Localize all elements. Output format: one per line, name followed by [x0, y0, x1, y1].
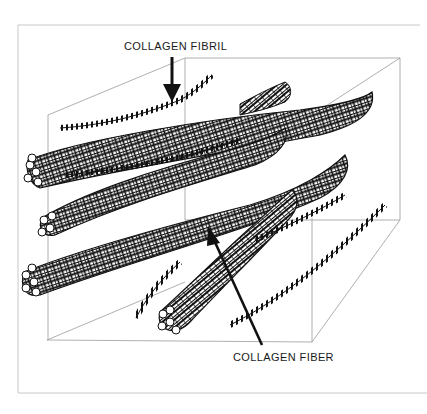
fibril-pointer-arrow: [163, 57, 181, 102]
collagen-fibers: [22, 75, 385, 334]
collagen-fibril-label: COLLAGEN FIBRIL: [124, 40, 227, 52]
collagen-diagram: [0, 0, 427, 414]
fibril-upper: [60, 75, 212, 128]
collagen-fiber-label: COLLAGEN FIBER: [233, 351, 334, 363]
